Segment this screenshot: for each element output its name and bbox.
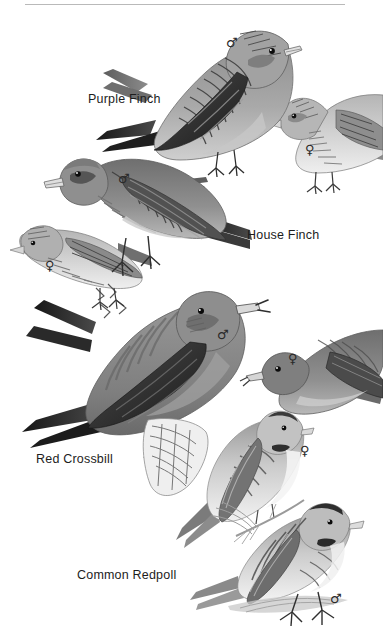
female-symbol-house-finch: ♀ [45, 259, 55, 272]
male-symbol-red-crossbill: ♂ [217, 328, 229, 341]
male-symbol-common-redpoll: ♂ [330, 592, 342, 605]
male-symbol-house-finch: ♂ [118, 172, 130, 185]
species-label-red-crossbill: Red Crossbill [36, 452, 113, 466]
female-symbol-common-redpoll: ♀ [300, 444, 310, 457]
bird-plate-page: Purple Finch ♂ ♀ House Finch ♂ ♀ Red Cro… [0, 0, 383, 644]
red-crossbill-female-illustration [240, 330, 383, 414]
species-label-common-redpoll: Common Redpoll [77, 568, 176, 582]
species-label-purple-finch: Purple Finch [88, 92, 161, 106]
house-finch-female-illustration [10, 226, 152, 310]
species-label-house-finch: House Finch [247, 228, 319, 242]
female-symbol-purple-finch: ♀ [305, 143, 315, 156]
male-symbol-purple-finch: ♂ [226, 36, 238, 49]
female-symbol-red-crossbill: ♀ [288, 352, 298, 365]
plate-artwork [0, 0, 383, 644]
